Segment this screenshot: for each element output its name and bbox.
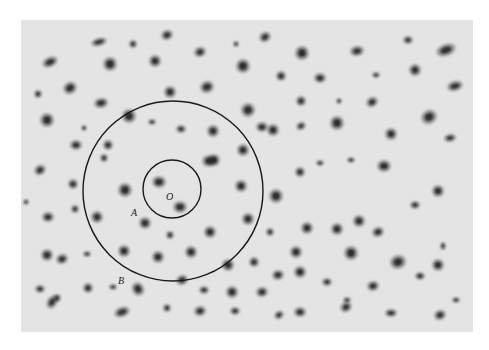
galaxy: [148, 119, 156, 125]
galaxy: [176, 125, 186, 133]
galaxy: [257, 30, 272, 45]
outer-circle: [83, 101, 263, 281]
galaxy: [295, 120, 308, 132]
galaxy: [23, 199, 29, 205]
galaxy: [149, 55, 161, 67]
galaxy: [269, 189, 283, 203]
galaxy: [336, 98, 342, 104]
inner-circle: [143, 160, 201, 218]
galaxy: [443, 133, 456, 143]
galaxy: [403, 36, 413, 44]
galaxy: [118, 245, 130, 257]
galaxy: [276, 71, 286, 81]
galaxy: [349, 45, 365, 57]
galaxy: [271, 269, 285, 281]
galaxy: [152, 251, 164, 263]
galaxy: [385, 309, 397, 317]
galaxy: [242, 213, 254, 225]
galaxy: [199, 286, 209, 294]
galaxy: [237, 144, 249, 156]
galaxy: [316, 160, 324, 166]
galaxy: [113, 305, 131, 320]
galaxy: [440, 242, 446, 250]
galaxy: [34, 90, 42, 98]
galaxy: [41, 249, 53, 261]
galaxy: [294, 307, 306, 317]
galaxy: [100, 154, 108, 162]
galaxy: [296, 96, 306, 106]
galaxy: [42, 212, 54, 222]
galaxy: [432, 259, 444, 271]
galaxy: [385, 128, 397, 140]
galaxy: [301, 222, 313, 234]
galaxy: [202, 155, 216, 167]
galaxy: [32, 163, 47, 178]
galaxy: [419, 107, 440, 127]
galaxy: [40, 113, 54, 127]
galaxy: [71, 205, 79, 213]
galaxy: [267, 124, 279, 136]
galaxy: [364, 95, 379, 110]
galaxy: [163, 304, 171, 312]
galaxy: [166, 231, 174, 239]
galaxy: [290, 246, 302, 258]
galaxy: [314, 73, 326, 83]
galaxy: [139, 217, 151, 229]
galaxy: [93, 97, 109, 109]
galaxy: [377, 160, 391, 172]
galaxy: [129, 40, 137, 48]
galaxy: [432, 185, 444, 197]
galaxy: [353, 215, 365, 227]
galaxy: [193, 305, 207, 317]
galaxy: [193, 45, 208, 59]
galaxy: [266, 228, 274, 236]
galaxy: [90, 36, 108, 48]
galaxy: [83, 251, 91, 257]
galaxy: [230, 307, 240, 315]
galaxy: [407, 62, 423, 78]
galaxy: [103, 140, 113, 150]
galaxies-group: [23, 28, 464, 322]
galaxy: [415, 272, 425, 280]
galaxy: [185, 246, 197, 258]
galaxy: [322, 278, 332, 286]
galaxy: [330, 116, 344, 130]
galaxy: [344, 246, 358, 260]
galaxy: [89, 209, 105, 225]
galaxy: [173, 201, 187, 213]
galaxy: [207, 125, 219, 137]
galaxy: [371, 225, 386, 239]
galaxy: [294, 266, 306, 278]
galaxy: [35, 285, 45, 293]
galaxy: [347, 157, 355, 163]
galaxy: [109, 284, 117, 290]
galaxy: [410, 201, 420, 209]
galaxy: [118, 183, 132, 197]
galaxy: [164, 86, 176, 98]
galaxy: [446, 79, 464, 93]
galaxy: [204, 226, 216, 238]
galaxy: [295, 46, 309, 60]
galaxy: [152, 176, 166, 188]
galaxy: [435, 41, 458, 59]
label-b: B: [118, 276, 124, 286]
galaxy: [295, 167, 305, 177]
galaxy: [433, 308, 448, 322]
galaxy: [235, 180, 247, 192]
galaxy: [236, 59, 250, 73]
galaxy: [83, 283, 93, 293]
galaxy: [256, 122, 268, 132]
galaxy-field: [0, 0, 489, 350]
galaxy: [61, 79, 79, 96]
galaxy: [366, 280, 380, 292]
galaxy: [255, 286, 269, 298]
galaxy: [452, 297, 460, 303]
galaxy: [331, 223, 343, 235]
galaxy: [338, 300, 353, 315]
galaxy: [198, 79, 215, 95]
galaxy: [226, 286, 238, 298]
galaxy: [249, 257, 259, 267]
label-a: A: [131, 208, 137, 218]
galaxy: [103, 57, 117, 71]
galaxy: [41, 54, 60, 70]
